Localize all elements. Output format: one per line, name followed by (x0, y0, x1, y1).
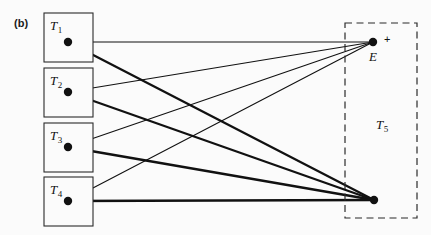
edge-t4-to-ground (68, 200, 374, 201)
panel-label: (b) (14, 17, 28, 29)
polarity-sign-e: + (384, 33, 390, 45)
node-t3 (64, 143, 72, 151)
labels-layer: T1T2T3T4T5E+ (50, 18, 390, 199)
node-ground (370, 196, 378, 204)
figure-panel-b: T1T2T3T4T5E+ (b) (0, 0, 431, 235)
edges-layer (68, 42, 374, 201)
label-e: E (368, 49, 377, 64)
node-t1 (64, 38, 72, 46)
node-e (369, 38, 377, 46)
label-t5: T5 (376, 117, 389, 134)
node-t4 (64, 197, 72, 205)
diagram-canvas: T1T2T3T4T5E+ (b) (0, 0, 431, 235)
edge-t3-to-ground (68, 147, 374, 200)
node-t2 (64, 88, 72, 96)
edge-t2-to-ground (68, 92, 374, 200)
edge-t3-to-e (68, 42, 373, 147)
edge-t2-to-e (68, 42, 373, 92)
